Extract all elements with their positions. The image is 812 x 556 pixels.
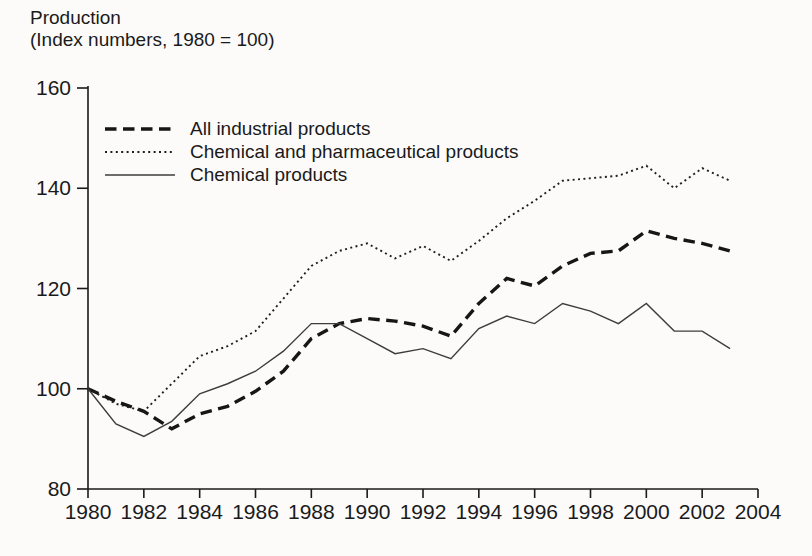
legend-line-sample-solid [104, 171, 176, 179]
series-line-1 [88, 166, 730, 412]
x-tick-label: 1990 [344, 500, 391, 523]
x-tick-label: 1980 [65, 500, 112, 523]
x-tick-label: 1996 [511, 500, 558, 523]
chart-title-line2: (Index numbers, 1980 = 100) [30, 29, 275, 51]
x-tick-label: 1988 [288, 500, 335, 523]
legend-item: All industrial products [104, 117, 518, 140]
legend-label: Chemical products [190, 164, 347, 186]
legend-label: Chemical and pharmaceutical products [190, 141, 518, 163]
x-tick-label: 1984 [176, 500, 223, 523]
y-tick-label: 160 [36, 76, 71, 99]
x-tick-label: 1982 [120, 500, 167, 523]
chart-title-line1: Production [30, 7, 275, 29]
chart-canvas: 8010012014016019801982198419861988199019… [0, 0, 812, 556]
chart-page: 8010012014016019801982198419861988199019… [0, 0, 812, 556]
y-tick-label: 100 [36, 377, 71, 400]
x-tick-label: 1986 [232, 500, 279, 523]
legend-item: Chemical products [104, 163, 518, 186]
legend-item: Chemical and pharmaceutical products [104, 140, 518, 163]
y-tick-label: 80 [48, 477, 71, 500]
x-tick-label: 1994 [455, 500, 502, 523]
x-tick-label: 2002 [679, 500, 726, 523]
x-tick-label: 1998 [567, 500, 614, 523]
series-line-0 [88, 231, 730, 429]
x-tick-label: 1992 [400, 500, 447, 523]
x-tick-label: 2004 [735, 500, 782, 523]
legend-label: All industrial products [190, 118, 371, 140]
legend-line-sample-dotted [104, 148, 176, 156]
legend-line-sample-dashed [104, 125, 176, 133]
y-tick-label: 120 [36, 277, 71, 300]
chart-legend: All industrial products Chemical and pha… [104, 117, 518, 186]
y-tick-label: 140 [36, 176, 71, 199]
chart-title: Production (Index numbers, 1980 = 100) [30, 7, 275, 51]
x-tick-label: 2000 [623, 500, 670, 523]
